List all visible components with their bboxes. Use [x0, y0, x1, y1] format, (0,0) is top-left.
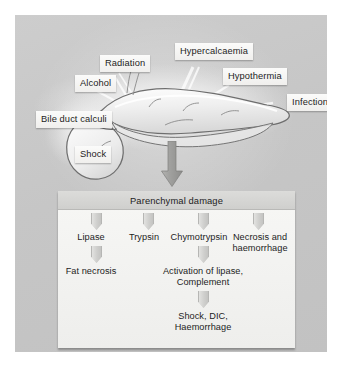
- flow-node-chymotrypsin: Chymotrypsin: [169, 232, 229, 243]
- cause-label-alcohol[interactable]: Alcohol: [75, 75, 116, 92]
- flow-arrow-to-trypsin: [143, 213, 154, 230]
- flowchart-header: Parenchymal damage: [58, 191, 295, 210]
- cause-label-text: Radiation: [105, 58, 145, 68]
- flow-node-fat-necrosis: Fat necrosis: [62, 266, 120, 277]
- flow-arrow-to-chymotrypsin: [198, 213, 209, 230]
- cause-label-hypothermia[interactable]: Hypothermia: [223, 68, 287, 85]
- cause-label-hypercalcaemia[interactable]: Hypercalcaemia: [175, 43, 253, 60]
- flow-arrow-to-fat-necrosis: [91, 246, 102, 263]
- flow-arrow-to-lipase: [91, 213, 102, 230]
- flow-arrow-to-necrosis: [253, 213, 264, 230]
- flow-node-text-line2: haemorrhage: [232, 243, 287, 253]
- flow-node-text: Chymotrypsin: [171, 232, 228, 242]
- cause-label-text: Infection: [292, 97, 327, 107]
- flow-node-text-line1: Shock, DIC,: [178, 311, 228, 321]
- cause-label-text: Hypercalcaemia: [180, 46, 248, 56]
- cause-label-text: Hypothermia: [228, 71, 282, 81]
- flow-arrow-to-activation: [198, 246, 209, 263]
- flow-node-text-line1: Necrosis and: [233, 232, 287, 242]
- flow-node-activation-lipase-complement: Activation of lipase, Complement: [148, 266, 258, 288]
- flowchart-header-text: Parenchymal damage: [130, 195, 223, 206]
- pathophysiology-flowchart: Parenchymal damage Lipase Trypsin Chymot…: [58, 191, 295, 348]
- flow-node-text: Trypsin: [129, 232, 159, 242]
- cause-label-shock[interactable]: Shock: [75, 146, 111, 163]
- cause-label-radiation[interactable]: Radiation: [100, 55, 150, 72]
- cause-label-text: Bile duct calculi: [41, 114, 107, 124]
- flow-node-text-line2: Haemorrhage: [175, 322, 232, 332]
- parenchymal-damage-arrow: [161, 141, 183, 187]
- flow-arrow-to-outcome: [198, 291, 209, 308]
- cause-label-text: Alcohol: [80, 78, 111, 88]
- flow-node-text-line2: Complement: [177, 277, 230, 287]
- flow-node-necrosis-haemorrhage: Necrosis and haemorrhage: [229, 232, 291, 254]
- cause-label-text: Shock: [80, 149, 106, 159]
- flow-node-lipase: Lipase: [67, 232, 115, 243]
- flow-node-text: Fat necrosis: [66, 266, 117, 276]
- diagram-panel: Radiation Hypercalcaemia Hypothermia Alc…: [15, 15, 327, 352]
- flow-node-text-line1: Activation of lipase,: [163, 266, 243, 276]
- flow-node-text: Lipase: [77, 232, 104, 242]
- figure-root: Radiation Hypercalcaemia Hypothermia Alc…: [0, 0, 342, 367]
- cause-label-bile-duct-calculi[interactable]: Bile duct calculi: [36, 111, 112, 128]
- flow-node-shock-dic-haemorrhage: Shock, DIC, Haemorrhage: [158, 311, 248, 333]
- flow-node-trypsin: Trypsin: [120, 232, 168, 243]
- cause-label-infection[interactable]: Infection: [287, 94, 327, 111]
